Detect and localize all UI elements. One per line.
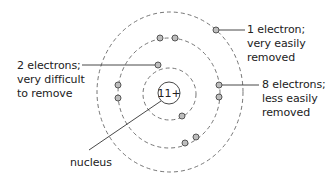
- nucleus-charge: 11+: [157, 87, 180, 100]
- electron-icon: [216, 82, 222, 88]
- electron-icon: [115, 95, 121, 101]
- nucleus-caption: nucleus: [70, 156, 112, 170]
- electron-icon: [172, 35, 178, 41]
- electron-icon: [155, 62, 161, 68]
- annotation-line: very difficult: [17, 73, 85, 87]
- annotation-line: removed: [262, 106, 326, 120]
- nucleus-caption-text: nucleus: [70, 156, 112, 170]
- inner-shell-annotation: 2 electrons; very difficult to remove: [17, 59, 85, 101]
- annotation-line: 8 electrons;: [262, 78, 326, 92]
- electron-icon: [179, 113, 185, 119]
- annotation-line: to remove: [17, 87, 85, 101]
- annotation-line: less easily: [262, 92, 326, 106]
- electron-icon: [213, 27, 219, 33]
- electron-icon: [157, 35, 163, 41]
- outer-shell-annotation: 1 electron; very easily removed: [247, 23, 306, 65]
- annotation-line: 2 electrons;: [17, 59, 85, 73]
- electron-icon: [216, 94, 222, 100]
- annotation-line: very easily: [247, 37, 306, 51]
- annotation-line: removed: [247, 51, 306, 65]
- annotation-line: 1 electron;: [247, 23, 306, 37]
- electron-icon: [193, 134, 199, 140]
- electron-icon: [115, 82, 121, 88]
- nucleus: 11+: [157, 82, 180, 104]
- nucleus-leader-line: [89, 101, 161, 150]
- middle-shell-annotation: 8 electrons; less easily removed: [262, 78, 326, 120]
- electron-icon: [182, 140, 188, 146]
